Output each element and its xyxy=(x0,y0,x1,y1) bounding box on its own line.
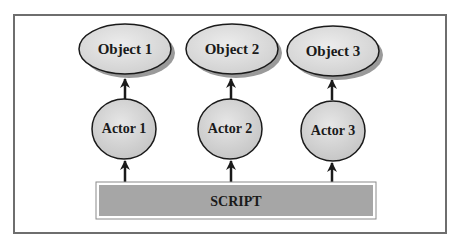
actor-node-1: Actor 1 xyxy=(92,99,156,159)
actor-node-2: Actor 2 xyxy=(198,99,262,159)
actor-node-3: Actor 3 xyxy=(301,101,365,161)
script-node: SCRIPT xyxy=(96,182,376,219)
object-3-label: Object 3 xyxy=(306,43,361,59)
actor-3-label: Actor 3 xyxy=(311,123,355,138)
object-1-label: Object 1 xyxy=(98,41,153,57)
script-actor-object-diagram: Object 1 Object 2 Object 3 Actor 1 Actor… xyxy=(0,0,460,244)
actor-2-label: Actor 2 xyxy=(208,121,252,136)
actor-1-label: Actor 1 xyxy=(102,121,146,136)
script-label: SCRIPT xyxy=(210,194,262,209)
object-2-label: Object 2 xyxy=(205,41,260,57)
